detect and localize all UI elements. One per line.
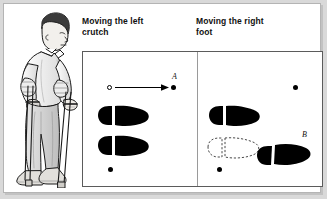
figure-page: Moving the left crutch Moving the right … xyxy=(0,0,327,199)
panel-left-title-line2: crutch xyxy=(82,27,178,38)
label-a: A xyxy=(172,72,177,81)
panel-right-title-line1: Moving the right xyxy=(196,16,300,27)
person-with-crutches-illustration xyxy=(8,8,82,188)
right-crutch-tip-marker xyxy=(293,85,298,90)
panel-right-title: Moving the right foot xyxy=(196,16,300,37)
left-foot-print xyxy=(95,104,151,128)
panel-left-title-line1: Moving the left xyxy=(82,16,178,27)
left-crutch-movement-arrow xyxy=(115,83,170,92)
left-foot-print xyxy=(206,104,262,128)
start-crutch-tip-marker xyxy=(107,85,112,90)
label-b: B xyxy=(302,130,307,139)
figure-sheet: Moving the left crutch Moving the right … xyxy=(3,3,321,193)
gait-diagram: A xyxy=(82,51,323,187)
end-crutch-tip-marker xyxy=(171,85,176,90)
panel-right-title-line2: foot xyxy=(196,27,300,38)
left-crutch-tip-marker xyxy=(217,167,222,172)
right-crutch-tip xyxy=(58,182,65,188)
left-crutch-tip xyxy=(26,180,32,186)
panel-right: B xyxy=(198,52,323,186)
right-foot-print xyxy=(95,134,151,158)
right-crutch-tip-marker xyxy=(108,167,113,172)
panel-left-title: Moving the left crutch xyxy=(82,16,178,37)
panel-left: A xyxy=(83,52,197,186)
right-foot-new-position xyxy=(254,141,314,167)
